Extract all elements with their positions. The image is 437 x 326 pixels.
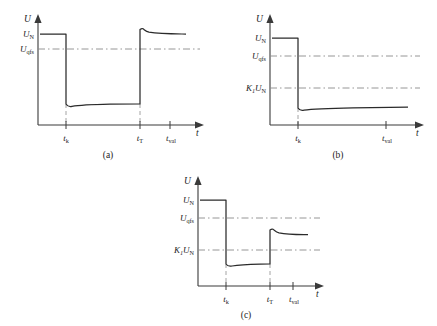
waveform-c: [200, 200, 308, 266]
waveform-b: [272, 38, 408, 110]
x-tick-label-tk-c: tk: [223, 294, 230, 305]
x-axis-title-a: t: [196, 128, 199, 138]
chart-panel-c: U t UN Uqfs K1UN tk tT tval (c): [148, 162, 437, 326]
y-tick-label-k1un-c: K1UN: [173, 245, 195, 256]
y-axis-title-a: U: [24, 14, 32, 24]
caption-c: (c): [241, 310, 252, 321]
y-tick-label-uqfs-a: Uqfs: [20, 44, 35, 55]
x-tick-label-tval-b: tval: [382, 133, 392, 144]
y-tick-label-uqfs-c: Uqfs: [180, 213, 195, 224]
y-tick-label-un-c: UN: [183, 195, 195, 206]
y-tick-label-un-a: UN: [23, 29, 35, 40]
caption-a: (a): [103, 150, 114, 161]
x-tick-label-tk-b: tk: [295, 133, 302, 144]
chart-panel-b: U t UN Uqfs K1UN tk tval (b): [218, 0, 437, 165]
x-tick-label-tt-a: tT: [137, 133, 144, 144]
y-axis-arrow-a: [34, 14, 41, 23]
y-axis-title-c: U: [184, 176, 192, 186]
y-tick-label-un-b: UN: [255, 33, 267, 44]
waveform-a: [40, 29, 186, 107]
caption-b: (b): [332, 150, 343, 161]
x-tick-label-tval-a: tval: [166, 133, 176, 144]
y-tick-label-uqfs-b: Uqfs: [252, 51, 267, 62]
y-axis-arrow-b: [266, 14, 273, 23]
y-tick-label-k1un-b: K1UN: [245, 83, 267, 94]
y-axis-title-b: U: [256, 14, 264, 24]
chart-panel-a: U t UN Uqfs tk tT tval (a): [0, 0, 220, 165]
x-axis-title-b: t: [416, 128, 419, 138]
x-tick-label-tt-c: tT: [267, 294, 274, 305]
x-tick-label-tval-c: tval: [289, 294, 299, 305]
x-axis-title-c: t: [316, 289, 319, 299]
x-tick-label-tk-a: tk: [63, 133, 70, 144]
y-axis-arrow-c: [194, 176, 201, 185]
